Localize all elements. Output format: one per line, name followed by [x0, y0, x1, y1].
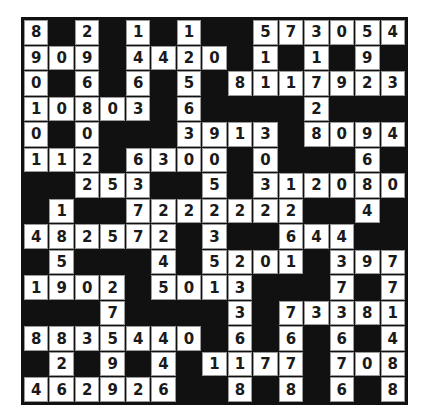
digit-cell[interactable]: 2 [75, 224, 99, 249]
digit-cell[interactable]: 2 [228, 250, 252, 275]
digit-cell[interactable]: 9 [330, 71, 354, 96]
digit-cell[interactable]: 2 [75, 20, 99, 45]
digit-cell[interactable]: 1 [228, 122, 252, 147]
digit-cell[interactable]: 4 [304, 224, 328, 249]
digit-cell[interactable]: 8 [24, 20, 48, 45]
digit-cell[interactable]: 6 [126, 148, 150, 173]
digit-cell[interactable]: 1 [24, 148, 48, 173]
digit-cell[interactable]: 2 [126, 377, 150, 402]
digit-cell[interactable]: 0 [253, 148, 277, 173]
digit-cell[interactable]: 2 [253, 199, 277, 224]
digit-cell[interactable]: 3 [304, 301, 328, 326]
digit-cell[interactable]: 6 [279, 326, 303, 351]
digit-cell[interactable]: 1 [381, 301, 405, 326]
digit-cell[interactable]: 0 [100, 97, 124, 122]
digit-cell[interactable]: 7 [330, 352, 354, 377]
digit-cell[interactable]: 0 [330, 122, 354, 147]
digit-cell[interactable]: 1 [279, 71, 303, 96]
digit-cell[interactable]: 3 [253, 122, 277, 147]
digit-cell[interactable]: 3 [381, 71, 405, 96]
digit-cell[interactable]: 7 [381, 275, 405, 300]
digit-cell[interactable]: 3 [202, 224, 226, 249]
digit-cell[interactable]: 7 [279, 352, 303, 377]
digit-cell[interactable]: 5 [202, 173, 226, 198]
digit-cell[interactable]: 3 [253, 173, 277, 198]
digit-cell[interactable]: 4 [151, 46, 175, 71]
digit-cell[interactable]: 9 [355, 250, 379, 275]
digit-cell[interactable]: 0 [49, 97, 73, 122]
digit-cell[interactable]: 2 [177, 46, 201, 71]
digit-cell[interactable]: 7 [126, 199, 150, 224]
digit-cell[interactable]: 6 [228, 326, 252, 351]
digit-cell[interactable]: 0 [24, 71, 48, 96]
digit-cell[interactable]: 0 [355, 352, 379, 377]
digit-cell[interactable]: 5 [177, 71, 201, 96]
digit-cell[interactable]: 1 [49, 148, 73, 173]
digit-cell[interactable]: 2 [75, 377, 99, 402]
digit-cell[interactable]: 4 [151, 326, 175, 351]
digit-cell[interactable]: 3 [126, 97, 150, 122]
digit-cell[interactable]: 1 [279, 250, 303, 275]
digit-cell[interactable]: 1 [177, 20, 201, 45]
digit-cell[interactable]: 9 [100, 377, 124, 402]
digit-cell[interactable]: 8 [228, 71, 252, 96]
digit-cell[interactable]: 4 [24, 224, 48, 249]
digit-cell[interactable]: 0 [177, 275, 201, 300]
digit-cell[interactable]: 8 [381, 352, 405, 377]
digit-cell[interactable]: 3 [330, 301, 354, 326]
digit-cell[interactable]: 0 [202, 148, 226, 173]
digit-cell[interactable]: 1 [253, 71, 277, 96]
digit-cell[interactable]: 9 [355, 122, 379, 147]
digit-cell[interactable]: 1 [202, 275, 226, 300]
digit-cell[interactable]: 5 [253, 20, 277, 45]
digit-cell[interactable]: 6 [330, 326, 354, 351]
digit-cell[interactable]: 9 [24, 46, 48, 71]
digit-cell[interactable]: 4 [381, 326, 405, 351]
digit-cell[interactable]: 4 [151, 250, 175, 275]
digit-cell[interactable]: 6 [177, 97, 201, 122]
digit-cell[interactable]: 1 [24, 97, 48, 122]
digit-cell[interactable]: 0 [253, 250, 277, 275]
digit-cell[interactable]: 9 [49, 275, 73, 300]
digit-cell[interactable]: 8 [279, 377, 303, 402]
digit-cell[interactable]: 2 [279, 199, 303, 224]
digit-cell[interactable]: 8 [75, 97, 99, 122]
digit-cell[interactable]: 0 [75, 122, 99, 147]
digit-cell[interactable]: 0 [330, 20, 354, 45]
digit-cell[interactable]: 2 [151, 199, 175, 224]
digit-cell[interactable]: 0 [202, 46, 226, 71]
digit-cell[interactable]: 1 [304, 46, 328, 71]
digit-cell[interactable]: 5 [49, 250, 73, 275]
digit-cell[interactable]: 1 [228, 352, 252, 377]
digit-cell[interactable]: 2 [355, 71, 379, 96]
digit-cell[interactable]: 3 [330, 250, 354, 275]
digit-cell[interactable]: 6 [126, 71, 150, 96]
digit-cell[interactable]: 0 [24, 122, 48, 147]
digit-cell[interactable]: 0 [177, 148, 201, 173]
digit-cell[interactable]: 0 [75, 275, 99, 300]
digit-cell[interactable]: 7 [381, 250, 405, 275]
digit-cell[interactable]: 4 [330, 224, 354, 249]
digit-cell[interactable]: 7 [304, 71, 328, 96]
digit-cell[interactable]: 2 [100, 275, 124, 300]
digit-cell[interactable]: 4 [126, 326, 150, 351]
digit-cell[interactable]: 0 [330, 173, 354, 198]
digit-cell[interactable]: 2 [177, 199, 201, 224]
digit-cell[interactable]: 3 [228, 301, 252, 326]
digit-cell[interactable]: 9 [355, 46, 379, 71]
digit-cell[interactable]: 2 [151, 224, 175, 249]
digit-cell[interactable]: 5 [151, 275, 175, 300]
digit-cell[interactable]: 9 [75, 46, 99, 71]
digit-cell[interactable]: 9 [100, 352, 124, 377]
digit-cell[interactable]: 1 [126, 20, 150, 45]
digit-cell[interactable]: 8 [49, 224, 73, 249]
digit-cell[interactable]: 0 [49, 46, 73, 71]
digit-cell[interactable]: 5 [355, 20, 379, 45]
digit-cell[interactable]: 5 [100, 326, 124, 351]
digit-cell[interactable]: 5 [202, 250, 226, 275]
digit-cell[interactable]: 0 [381, 173, 405, 198]
digit-cell[interactable]: 6 [75, 71, 99, 96]
digit-cell[interactable]: 4 [24, 377, 48, 402]
digit-cell[interactable]: 2 [202, 199, 226, 224]
digit-cell[interactable]: 2 [304, 173, 328, 198]
